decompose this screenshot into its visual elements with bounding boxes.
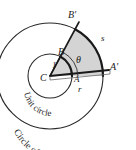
label-unit-radius: 1 — [52, 60, 57, 70]
label-b-prime: B′ — [68, 9, 77, 20]
caption-unit-circle: Unit circle — [22, 91, 52, 118]
point-a-dot — [71, 75, 73, 77]
label-outer-radius: r — [78, 84, 82, 94]
label-a: A — [73, 74, 80, 84]
label-b: B — [58, 46, 64, 57]
geometry-figure: B′ s A′ B 1 θ C A r Unit circle Circle o… — [0, 0, 136, 150]
label-a-prime: A′ — [109, 61, 119, 72]
label-center-c: C — [40, 72, 47, 83]
caption-outer-circle: Circle of radius r — [12, 127, 68, 150]
label-arc-s: s — [101, 33, 105, 43]
diagram-canvas: B′ s A′ B 1 θ C A r Unit circle Circle o… — [0, 0, 136, 150]
label-theta: θ — [76, 54, 81, 65]
